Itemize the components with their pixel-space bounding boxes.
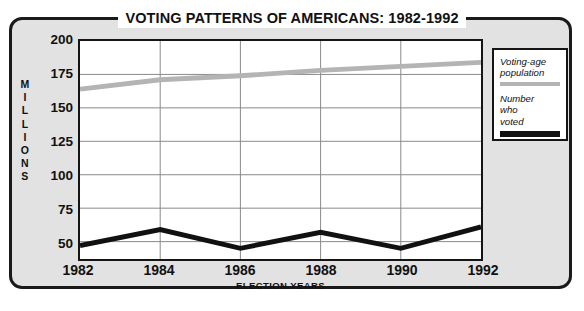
chart-title-bar: VOTING PATTERNS OF AMERICANS: 1982-1992 <box>0 7 584 29</box>
legend-entry-voting-age-population: Voting-age population <box>500 56 560 86</box>
legend-label: Number who voted <box>500 93 560 127</box>
x-axis-tick-labels: 198219841986198819901992 <box>78 262 483 282</box>
y-axis-tick-label: 150 <box>50 100 73 115</box>
title-rule-left <box>74 17 118 20</box>
legend-swatch-population <box>500 82 560 86</box>
y-axis-tick-label: 200 <box>50 32 73 47</box>
x-axis-title: ELECTION YEARS <box>78 280 483 291</box>
legend-label: Voting-age population <box>500 56 560 79</box>
legend-label-line: voted <box>500 116 560 127</box>
y-axis-tick-label: 100 <box>50 168 73 183</box>
legend-swatch-voted <box>500 131 560 137</box>
y-axis-tick-label: 75 <box>58 202 73 217</box>
y-axis-tick-label: 175 <box>50 66 73 81</box>
series-line-voting-age-population <box>80 62 481 89</box>
page-title: VOTING PATTERNS OF AMERICANS: 1982-1992 <box>118 9 465 28</box>
y-axis-tick-labels: 2001751501251007550 <box>30 39 76 261</box>
x-axis-tick-label: 1988 <box>305 262 336 278</box>
x-axis-tick-label: 1984 <box>143 262 174 278</box>
legend-label-line: population <box>500 67 560 78</box>
legend-entry-number-who-voted: Number who voted <box>500 93 560 137</box>
plot-area <box>78 39 483 261</box>
title-rule-right <box>466 17 510 20</box>
series-line-number-who-voted <box>80 227 481 248</box>
chart-figure: VOTING PATTERNS OF AMERICANS: 1982-1992 … <box>0 0 584 311</box>
chart-legend: Voting-age population Number who voted <box>492 48 568 141</box>
x-axis-tick-label: 1990 <box>386 262 417 278</box>
legend-label-line: Number <box>500 93 560 104</box>
y-axis-tick-label: 50 <box>58 236 73 251</box>
x-axis-tick-label: 1986 <box>224 262 255 278</box>
legend-label-line: Voting-age <box>500 56 560 67</box>
x-axis-tick-label: 1992 <box>467 262 498 278</box>
legend-label-line: who <box>500 104 560 115</box>
x-axis-tick-label: 1982 <box>62 262 93 278</box>
chart-canvas <box>80 41 481 259</box>
y-axis-tick-label: 125 <box>50 134 73 149</box>
